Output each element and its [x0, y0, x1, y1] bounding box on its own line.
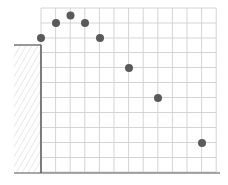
cliff-hatching — [14, 45, 41, 173]
trajectory-point — [154, 94, 162, 102]
cliff — [14, 45, 41, 173]
projectile-diagram — [0, 0, 228, 185]
trajectory-point — [81, 19, 89, 27]
trajectory-point — [67, 12, 75, 20]
grid — [41, 8, 216, 172]
trajectory-points — [37, 12, 206, 148]
trajectory-point — [125, 64, 133, 72]
trajectory-point — [52, 19, 60, 27]
trajectory-point — [198, 139, 206, 147]
trajectory-point — [96, 34, 104, 42]
trajectory-point — [37, 34, 45, 42]
